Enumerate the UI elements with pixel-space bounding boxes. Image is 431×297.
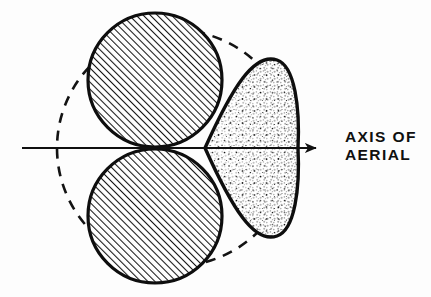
- radiation-pattern-diagram: AXIS OF AERIAL: [0, 0, 431, 297]
- upper-lobe-circle: [88, 13, 222, 147]
- axis-label: AXIS OF AERIAL: [345, 128, 417, 163]
- axis-label-line2: AERIAL: [345, 146, 411, 163]
- lower-lobe-circle: [88, 149, 222, 283]
- figure-container: AXIS OF AERIAL: [0, 0, 431, 297]
- axis-label-line1: AXIS OF: [345, 128, 417, 145]
